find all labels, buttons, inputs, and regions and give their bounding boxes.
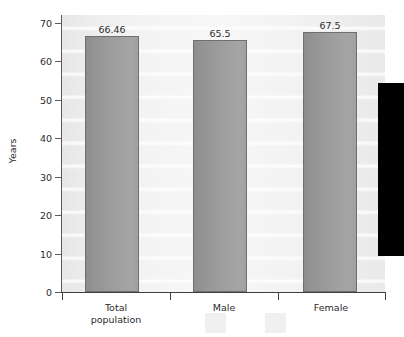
y-tick-40	[55, 138, 61, 139]
bar-female	[303, 32, 357, 292]
x-axis-label-total-population: Total population	[76, 302, 156, 325]
bar-chart-figure: 66.46 65.5 67.5 70 60 50 40 30 20 10 0 T…	[0, 0, 404, 337]
bar-value-label-total-population: 66.46	[85, 24, 139, 35]
y-tick-label-20: 20	[40, 210, 52, 221]
y-tick-20	[55, 215, 61, 216]
x-tick-3	[385, 293, 386, 300]
black-overlay-block	[378, 83, 404, 256]
y-tick-label-40: 40	[40, 133, 52, 144]
y-axis-line	[61, 15, 62, 293]
x-tick-2	[278, 293, 279, 300]
y-tick-label-10: 10	[40, 249, 52, 260]
y-tick-label-30: 30	[40, 172, 52, 183]
plot-area	[62, 15, 385, 292]
y-tick-30	[55, 177, 61, 178]
gray-swatch-left	[205, 313, 226, 333]
y-tick-label-60: 60	[40, 56, 52, 67]
x-axis-label-male: Male	[184, 302, 264, 314]
y-tick-label-70: 70	[40, 18, 52, 29]
y-tick-0	[55, 292, 61, 293]
y-tick-label-0: 0	[46, 287, 52, 298]
bar-value-label-male: 65.5	[193, 28, 247, 39]
x-tick-0	[62, 293, 63, 300]
x-axis-label-female: Female	[291, 302, 371, 314]
x-tick-1	[170, 293, 171, 300]
y-tick-10	[55, 254, 61, 255]
y-tick-50	[55, 100, 61, 101]
gray-swatch-right	[265, 313, 286, 333]
y-tick-60	[55, 61, 61, 62]
x-axis-line	[61, 292, 386, 293]
bar-total-population	[85, 36, 139, 292]
bar-value-label-female: 67.5	[303, 20, 357, 31]
y-tick-label-50: 50	[40, 95, 52, 106]
bar-male	[193, 40, 247, 292]
y-axis-title: Years	[7, 138, 18, 163]
y-tick-70	[55, 23, 61, 24]
